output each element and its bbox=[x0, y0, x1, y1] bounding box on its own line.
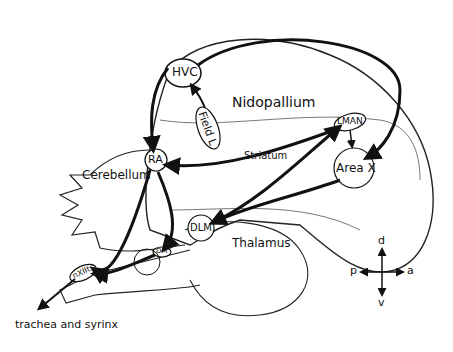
label-dm: DM bbox=[156, 247, 167, 255]
label-trachea-syrinx: trachea and syrinx bbox=[15, 318, 118, 331]
label-ra: RA bbox=[148, 153, 163, 166]
song-system-diagram: Nidopallium Striatum Cerebellum Thalamus… bbox=[0, 0, 453, 352]
compass-icon bbox=[362, 250, 402, 294]
label-dlm: DLM bbox=[190, 222, 212, 233]
label-lman: LMAN bbox=[337, 116, 363, 126]
compass-posterior: p bbox=[350, 264, 357, 277]
diagram-drawing bbox=[0, 0, 453, 352]
lman-to-areax-arrow bbox=[350, 130, 352, 146]
compass-dorsal: d bbox=[378, 234, 385, 247]
label-area-x: Area X bbox=[336, 161, 376, 175]
field-l-to-hvc-arrow bbox=[192, 86, 205, 108]
label-cerebellum: Cerebellum bbox=[82, 168, 151, 182]
compass-anterior: a bbox=[407, 264, 414, 277]
compass-ventral: v bbox=[378, 296, 385, 309]
label-nidopallium: Nidopallium bbox=[232, 94, 315, 110]
output-arrow bbox=[40, 279, 75, 308]
label-thalamus: Thalamus bbox=[232, 236, 291, 250]
label-striatum: Striatum bbox=[244, 150, 287, 161]
label-hvc: HVC bbox=[172, 65, 198, 79]
